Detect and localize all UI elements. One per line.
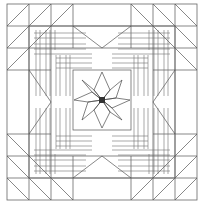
- plaid-corner-top-right: [112, 30, 170, 96]
- plaid-corner-bottom-left: [34, 108, 92, 174]
- quilt-block-diagram: [0, 0, 204, 205]
- quilt-svg-canvas: [0, 0, 204, 205]
- eight-point-lemoyne-star: [74, 72, 130, 128]
- sawtooth-right-column: [175, 26, 197, 178]
- sawtooth-top-row: [7, 4, 197, 26]
- plaid-corner-top-left: [34, 30, 92, 96]
- sawtooth-bottom-row: [7, 178, 197, 200]
- sawtooth-left-column: [7, 26, 29, 178]
